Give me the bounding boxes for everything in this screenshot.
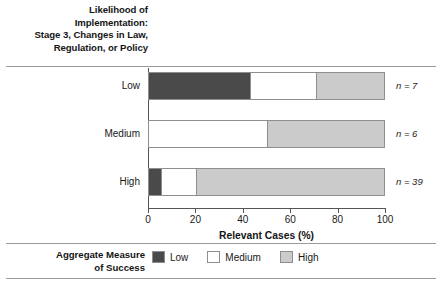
bar-row: Low n = 7 [148,72,385,100]
bar-segment-high [316,73,384,99]
x-tick [385,209,386,213]
legend-title-line-1: Aggregate Measure [56,249,145,260]
bar-segment-medium [250,73,316,99]
sample-size-label: n = 7 [396,72,417,100]
bar-row: High n = 39 [148,168,385,196]
bar-segment-high [267,121,385,147]
category-label-medium: Medium [104,120,140,148]
legend-title: Aggregate Measure of Success [0,249,145,274]
legend-swatch-low [152,251,165,263]
bar-segment-medium [161,169,196,195]
bar-row: Medium n = 6 [148,120,385,148]
legend-item-high[interactable]: High [280,251,319,263]
stacked-bar-medium[interactable] [148,120,385,148]
x-tick [195,209,196,213]
x-tick-label: 60 [285,214,296,225]
category-label-high: High [119,168,140,196]
chart-title-line-2: Implementation: [0,17,148,30]
chart-figure: Likelihood of Implementation: Stage 3, C… [0,0,442,284]
divider-top [6,66,436,67]
chart-title-line-3: Stage 3, Changes in Law, [0,29,148,42]
chart-title-line-1: Likelihood of [0,4,148,17]
bar-segment-low [149,169,161,195]
bar-segment-low [149,73,250,99]
x-tick [243,209,244,213]
divider-legend-bottom [6,278,436,279]
x-tick-label: 100 [377,214,394,225]
legend-title-line-2: of Success [94,262,145,273]
legend-label-low: Low [170,252,188,263]
x-tick [338,209,339,213]
stacked-bar-low[interactable] [148,72,385,100]
x-tick [148,209,149,213]
chart-title: Likelihood of Implementation: Stage 3, C… [0,4,148,54]
x-tick-label: 20 [190,214,201,225]
legend-item-low[interactable]: Low [152,251,188,263]
bar-segment-high [196,169,384,195]
plot-area: Low n = 7 Medium n = 6 High n = 39 [148,68,385,208]
legend-swatch-high [280,251,293,263]
category-label-low: Low [122,72,140,100]
legend-swatch-medium [207,251,220,263]
bar-segment-medium [149,121,267,147]
x-axis-line [148,208,386,209]
x-tick [290,209,291,213]
sample-size-label: n = 6 [396,120,417,148]
chart-title-line-4: Regulation, or Policy [0,42,148,55]
chart-legend: Aggregate Measure of Success Low Medium … [0,249,442,277]
sample-size-label: n = 39 [396,168,423,196]
x-tick-label: 0 [145,214,151,225]
legend-label-high: High [298,252,319,263]
stacked-bar-high[interactable] [148,168,385,196]
legend-item-medium[interactable]: Medium [207,251,261,263]
x-tick-label: 80 [332,214,343,225]
x-axis-label: Relevant Cases (%) [148,230,385,241]
divider-legend-top [6,243,436,244]
legend-items: Low Medium High [152,251,338,263]
legend-label-medium: Medium [225,252,261,263]
x-tick-label: 40 [237,214,248,225]
